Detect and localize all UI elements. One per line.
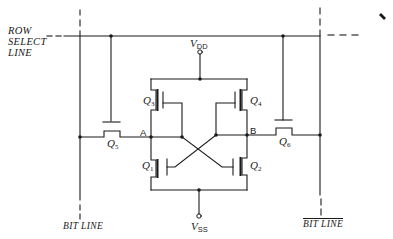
vdd-supply xyxy=(151,50,247,79)
q4-label: Q4 xyxy=(250,95,261,108)
sram-cell-diagram: ROW SELECT LINE VDD VSS A B Q3 Q4 Q1 Q2 … xyxy=(0,0,393,239)
transistor-q5 xyxy=(80,36,151,137)
transistor-q6 xyxy=(247,36,320,135)
vdd-label: VDD xyxy=(190,38,208,51)
vss-supply xyxy=(151,190,247,218)
bit-line-right-label: BIT LINE xyxy=(303,218,343,230)
row-select-label-line1: ROW xyxy=(8,25,47,36)
bit-line-right xyxy=(320,8,321,215)
transistor-q4 xyxy=(216,79,247,135)
transistor-q2 xyxy=(233,135,247,190)
row-select-line xyxy=(47,35,358,36)
node-b-label: B xyxy=(250,126,256,136)
row-select-label-line3: LINE xyxy=(8,47,47,58)
q3-label: Q3 xyxy=(143,95,154,108)
cross-coupling xyxy=(167,135,233,167)
q6-label: Q6 xyxy=(279,136,290,149)
row-select-label: ROW SELECT LINE xyxy=(8,25,47,58)
q2-label: Q2 xyxy=(250,160,261,173)
node-a-label: A xyxy=(140,128,146,138)
row-select-label-line2: SELECT xyxy=(8,36,47,47)
ink-mark xyxy=(379,13,386,20)
q1-label: Q1 xyxy=(142,160,153,173)
vss-label: VSS xyxy=(191,221,208,234)
transistor-q3 xyxy=(151,79,182,137)
circuit-wires xyxy=(0,0,393,239)
bit-line-left-label: BIT LINE xyxy=(63,222,103,232)
q5-label: Q5 xyxy=(107,138,118,151)
